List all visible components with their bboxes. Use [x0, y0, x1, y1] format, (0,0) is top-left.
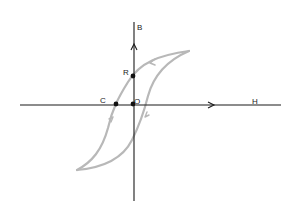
point-o-label: O: [134, 97, 140, 106]
point-r-label: R: [123, 68, 129, 77]
loop-arrow-right-icon: [145, 112, 149, 117]
point-c-label: C: [100, 96, 106, 105]
point-c-marker: [114, 102, 119, 107]
descending-branch: [77, 51, 189, 170]
h-axis: [20, 102, 281, 108]
hysteresis-diagram: B H C O R: [0, 0, 286, 215]
point-r-marker: [131, 74, 136, 79]
ascending-branch: [77, 51, 189, 170]
b-axis-label: B: [137, 23, 142, 32]
b-axis: [131, 22, 137, 201]
hysteresis-loop: [77, 51, 189, 170]
h-axis-label: H: [252, 97, 258, 106]
